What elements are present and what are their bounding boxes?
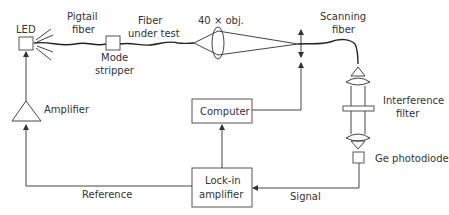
- pigtail-label-1: Pigtail: [67, 11, 98, 22]
- led: LED: [16, 24, 53, 60]
- scanning-fiber-label-2: fiber: [332, 24, 356, 35]
- scanning-fiber-label-1: Scanning: [320, 11, 366, 22]
- fiber-under-test-label-1: Fiber: [138, 15, 163, 26]
- computer-label: Computer: [200, 106, 251, 117]
- fiber-under-test-label-2: under test: [128, 28, 180, 39]
- amplifier-label: Amplifier: [44, 104, 90, 115]
- objective-label: 40 × obj.: [198, 15, 244, 26]
- lock-in-amplifier: [192, 168, 252, 207]
- amplifier-triangle-icon: [12, 101, 41, 121]
- light-rays-icon: [36, 29, 53, 60]
- reference-label: Reference: [82, 189, 132, 200]
- mode-stripper-label-1: Mode: [101, 52, 128, 63]
- reference-line: [26, 125, 192, 186]
- fiber-under-test: [120, 42, 194, 45]
- interference-filter-label-2: filter: [396, 108, 420, 119]
- lock-in-label-2: amplifier: [199, 189, 244, 200]
- mode-stripper-label-2: stripper: [95, 65, 135, 76]
- objective-lens: [194, 27, 298, 59]
- fiber-scanning-setup-diagram: LED Pigtail fiber Mode stripper Fiber un…: [0, 0, 449, 215]
- pigtail-label-2: fiber: [72, 24, 96, 35]
- signal-line: [253, 163, 359, 188]
- led-label: LED: [16, 24, 36, 35]
- photodiode-label: Ge photodiode: [375, 153, 449, 164]
- signal-label: Signal: [290, 191, 321, 202]
- mode-stripper: [106, 36, 120, 50]
- scanning-fiber: [298, 40, 358, 64]
- computer-to-scanner-arrow: [252, 63, 301, 110]
- lock-in-label-1: Lock-in: [205, 175, 241, 186]
- interference-filter-label-1: Interference: [383, 95, 444, 106]
- ge-photodiode: [353, 152, 364, 163]
- pigtail-fiber: [34, 43, 106, 45]
- interference-filter-assembly: [343, 67, 374, 149]
